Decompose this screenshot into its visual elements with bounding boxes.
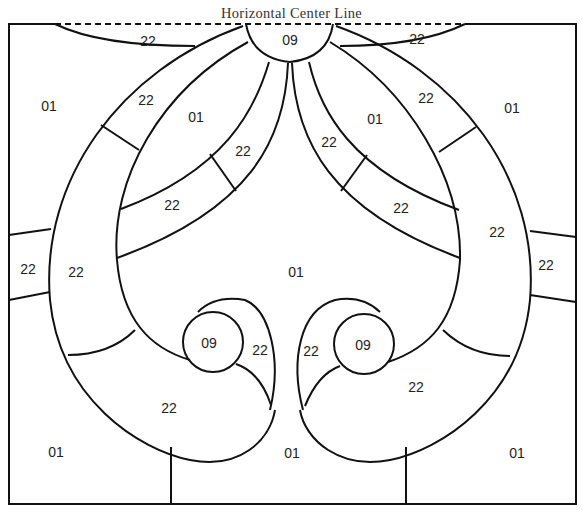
region-label-22: 22 <box>138 92 154 108</box>
left-curl-tail <box>236 364 271 405</box>
region-label-22: 22 <box>20 261 36 277</box>
divider-left-1 <box>101 125 139 150</box>
region-label-22: 22 <box>140 33 156 49</box>
region-label-22: 22 <box>235 143 251 159</box>
region-label-22: 22 <box>409 31 425 47</box>
region-label-22: 22 <box>408 379 424 395</box>
region-label-09: 09 <box>355 337 371 353</box>
region-label-01: 01 <box>367 111 383 127</box>
region-label-01: 01 <box>41 98 57 114</box>
right-outer-edge <box>300 26 531 462</box>
left-outer-edge <box>49 26 275 462</box>
region-label-22: 22 <box>68 264 84 280</box>
region-label-22: 22 <box>321 134 337 150</box>
region-label-09: 09 <box>282 32 298 48</box>
divider-left-3 <box>9 229 51 235</box>
region-label-09: 09 <box>201 335 217 351</box>
divider-right-5 <box>443 330 510 356</box>
region-label-22: 22 <box>252 342 268 358</box>
region-label-22: 22 <box>418 90 434 106</box>
region-label-01: 01 <box>504 100 520 116</box>
region-label-01: 01 <box>284 445 300 461</box>
divider-right-4 <box>530 295 576 302</box>
divider-right-1 <box>439 127 476 152</box>
divider-left-2 <box>210 154 236 191</box>
region-label-01: 01 <box>509 445 525 461</box>
region-label-22: 22 <box>303 343 319 359</box>
region-label-22: 22 <box>164 197 180 213</box>
region-label-01: 01 <box>288 264 304 280</box>
divider-right-3 <box>530 231 576 237</box>
region-label-22: 22 <box>393 200 409 216</box>
region-label-01: 01 <box>48 444 64 460</box>
region-label-22: 22 <box>489 224 505 240</box>
divider-left-4 <box>9 292 50 300</box>
region-label-01: 01 <box>188 109 204 125</box>
divider-left-5 <box>68 330 135 355</box>
right-leaf-inner <box>292 63 460 258</box>
top-left-arc <box>55 24 195 46</box>
region-label-22: 22 <box>161 400 177 416</box>
right-curl-tail <box>305 366 340 406</box>
region-label-22: 22 <box>538 257 554 273</box>
divider-right-2 <box>341 155 367 191</box>
stained-glass-pattern <box>0 0 583 514</box>
